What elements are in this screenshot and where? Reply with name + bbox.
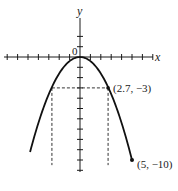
origin-label: 0	[72, 45, 78, 57]
point-marker-b	[130, 158, 134, 162]
parabola-plot: y x 0 (2.7, −3) (5, −10)	[0, 0, 178, 191]
point-label-b: (5, −10)	[137, 158, 173, 171]
point-marker-a	[106, 86, 110, 90]
point-label-a: (2.7, −3)	[113, 82, 152, 95]
x-axis-label: x	[154, 50, 161, 64]
y-axis-label: y	[76, 4, 83, 18]
axes	[4, 18, 153, 172]
